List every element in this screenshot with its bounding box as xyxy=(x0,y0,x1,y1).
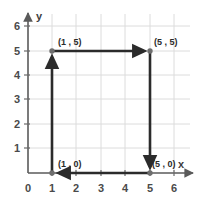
vertex-point-1-0 xyxy=(49,170,54,175)
x-tick-label-2: 2 xyxy=(73,182,79,194)
point-label-bottom-right: (5 , 0) xyxy=(152,159,176,169)
y-tick-label-3: 3 xyxy=(14,93,20,105)
point-label-bottom-left: (1 , 0) xyxy=(58,159,82,169)
x-tick-label-3: 3 xyxy=(98,182,104,194)
plot-svg: 1 2 3 4 5 6 0 1 2 3 4 5 6 y x (1 , xyxy=(0,0,204,206)
vertex-point-1-5 xyxy=(49,48,54,53)
x-tick-label-1: 1 xyxy=(49,182,55,194)
y-tick-label-4: 4 xyxy=(14,69,21,81)
x-tick-label-6: 6 xyxy=(171,182,177,194)
y-tick-label-5: 5 xyxy=(14,45,20,57)
point-label-top-left: (1 , 5) xyxy=(58,37,82,47)
coordinate-plane-figure: 1 2 3 4 5 6 0 1 2 3 4 5 6 y x (1 , xyxy=(0,0,204,206)
y-tick-label-1: 1 xyxy=(14,142,20,154)
point-label-top-right: (5 , 5) xyxy=(154,37,178,47)
vertex-point-5-0 xyxy=(147,170,152,175)
x-tick-label-5: 5 xyxy=(147,182,153,194)
y-tick-label-2: 2 xyxy=(14,118,20,130)
x-tick-label-4: 4 xyxy=(122,182,129,194)
x-axis-label: x xyxy=(178,158,185,170)
y-axis-label: y xyxy=(36,10,43,22)
x-tick-label-0: 0 xyxy=(25,182,31,194)
y-tick-label-6: 6 xyxy=(14,20,20,32)
vertex-point-5-5 xyxy=(147,48,152,53)
